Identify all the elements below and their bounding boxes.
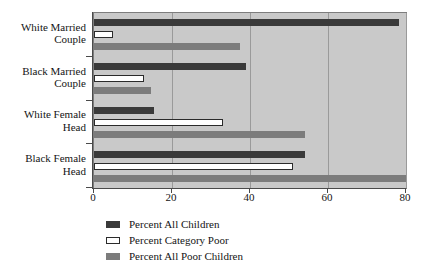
x-axis-tick-label: 60 <box>322 191 333 204</box>
bar-slot <box>94 87 406 94</box>
category-label: Black Female Head <box>0 152 86 177</box>
bar <box>94 151 305 158</box>
x-axis-tick-label: 0 <box>90 191 96 204</box>
bar-slot <box>94 107 406 114</box>
bar <box>94 19 399 26</box>
x-axis-tick-label: 20 <box>166 191 177 204</box>
legend-item: Percent All Poor Children <box>106 248 243 264</box>
y-axis-tick <box>86 187 92 188</box>
y-axis-tick <box>86 100 92 101</box>
legend-swatch-percent-all-children <box>106 221 120 228</box>
bar-group <box>94 13 406 57</box>
legend-item: Percent Category Poor <box>106 232 243 248</box>
bar <box>94 119 223 126</box>
bar <box>94 131 305 138</box>
legend-swatch-percent-category-poor <box>106 237 120 244</box>
bar-slot <box>94 151 406 158</box>
category-label: Black Married Couple <box>0 65 86 90</box>
legend-swatch-percent-all-poor-children <box>106 253 120 260</box>
bar-group <box>94 144 406 188</box>
bar-slot <box>94 75 406 82</box>
y-axis-line <box>92 12 93 189</box>
bar-slot <box>94 175 406 182</box>
bar-group <box>94 101 406 145</box>
category-label: White Married Couple <box>0 21 86 46</box>
plot-area <box>93 12 407 189</box>
bar-slot <box>94 163 406 170</box>
gridline <box>406 13 407 188</box>
chart-legend: Percent All Children Percent Category Po… <box>106 216 243 264</box>
x-axis-tick-label: 80 <box>400 191 411 204</box>
bar-slot <box>94 43 406 50</box>
bar-slot <box>94 63 406 70</box>
bar <box>94 31 113 38</box>
legend-label: Percent All Poor Children <box>129 250 243 263</box>
bar-slot <box>94 19 406 26</box>
bar <box>94 107 154 114</box>
bar-slot <box>94 131 406 138</box>
y-axis-tick <box>86 143 92 144</box>
bar <box>94 63 246 70</box>
category-label: White Female Head <box>0 108 86 133</box>
legend-label: Percent Category Poor <box>129 234 229 247</box>
bar <box>94 75 144 82</box>
bar-slot <box>94 31 406 38</box>
bar <box>94 43 240 50</box>
x-axis-tick-label: 40 <box>244 191 255 204</box>
bar-chart: White Married CoupleBlack Married Couple… <box>0 0 427 274</box>
bar <box>94 87 151 94</box>
bar-group <box>94 57 406 101</box>
bar-slot <box>94 119 406 126</box>
legend-label: Percent All Children <box>129 218 219 231</box>
y-axis-tick <box>86 56 92 57</box>
bar <box>94 163 293 170</box>
legend-item: Percent All Children <box>106 216 243 232</box>
bar <box>94 175 406 182</box>
